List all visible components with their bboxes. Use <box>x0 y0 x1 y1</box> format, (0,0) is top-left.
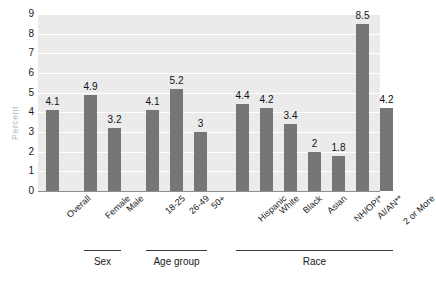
bar <box>194 132 207 191</box>
x-axis-line <box>38 191 380 192</box>
bar <box>108 128 121 191</box>
y-axis-tick-9: 9 <box>18 9 34 19</box>
bar <box>236 104 249 191</box>
bar <box>284 124 297 191</box>
y-axis-tick-6: 6 <box>18 68 34 78</box>
bar <box>332 156 345 191</box>
gridline-7 <box>38 53 380 54</box>
gridline-6 <box>38 73 380 74</box>
x-axis-category-label: 50+ <box>209 194 226 211</box>
y-axis-tick-8: 8 <box>18 29 34 39</box>
bar-value-label: 4.9 <box>77 82 105 92</box>
bar-value-label: 4.2 <box>373 95 401 105</box>
bar <box>308 152 321 191</box>
bar <box>260 108 273 191</box>
bar-value-label: 5.2 <box>163 76 191 86</box>
y-axis-tick-3: 3 <box>18 127 34 137</box>
bar <box>146 110 159 191</box>
x-axis-category-label: 18-25 <box>163 194 186 216</box>
y-axis-tick-2: 2 <box>18 147 34 157</box>
bar-value-label: 1.8 <box>325 143 353 153</box>
bar-value-label: 4.2 <box>253 95 281 105</box>
y-axis-ticks: 9876543210 <box>18 14 34 191</box>
bar-value-label: 3.4 <box>277 111 305 121</box>
group-rule-age-group <box>146 250 207 251</box>
x-axis-category-label: Overall <box>65 194 92 220</box>
gridline-8 <box>38 34 380 35</box>
group-label-age-group: Age group <box>146 256 207 267</box>
bar-value-label: 3 <box>187 119 215 129</box>
bar <box>46 110 59 191</box>
group-rule-sex <box>84 250 121 251</box>
gridline-9 <box>38 14 380 15</box>
bar-value-label: 3.2 <box>101 115 129 125</box>
y-axis-tick-5: 5 <box>18 88 34 98</box>
x-axis-category-label: 2 or More <box>401 194 436 226</box>
bar <box>380 108 393 191</box>
bar-value-label: 4.1 <box>39 97 67 107</box>
bar-value-label: 8.5 <box>349 11 377 21</box>
group-rule-race <box>236 250 393 251</box>
y-axis-tick-4: 4 <box>18 107 34 117</box>
x-axis-category-label: Black <box>301 194 323 215</box>
x-axis-category-label: Asian <box>325 194 348 216</box>
bar <box>84 95 97 191</box>
bar <box>170 89 183 191</box>
y-axis-tick-0: 0 <box>18 186 34 196</box>
bar <box>356 24 369 191</box>
group-label-race: Race <box>236 256 393 267</box>
y-axis-tick-1: 1 <box>18 166 34 176</box>
bar-value-label: 4.1 <box>139 97 167 107</box>
group-label-sex: Sex <box>84 256 121 267</box>
x-axis-category-label: 26-49 <box>187 194 210 216</box>
y-axis-tick-7: 7 <box>18 48 34 58</box>
